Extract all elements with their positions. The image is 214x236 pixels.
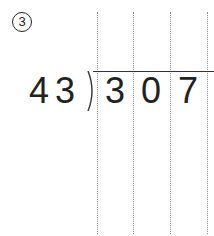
column-guide-line <box>133 12 134 234</box>
divisor: 43 <box>29 70 81 112</box>
division-bracket-icon <box>86 71 96 111</box>
dividend-digit: 7 <box>170 70 206 112</box>
column-guide-line <box>207 12 208 234</box>
column-guide-line <box>170 12 171 234</box>
dividend-digit: 3 <box>97 70 133 112</box>
problem-number-badge: 3 <box>12 12 32 32</box>
dividend-digit: 0 <box>133 70 169 112</box>
column-guide-line <box>97 12 98 234</box>
